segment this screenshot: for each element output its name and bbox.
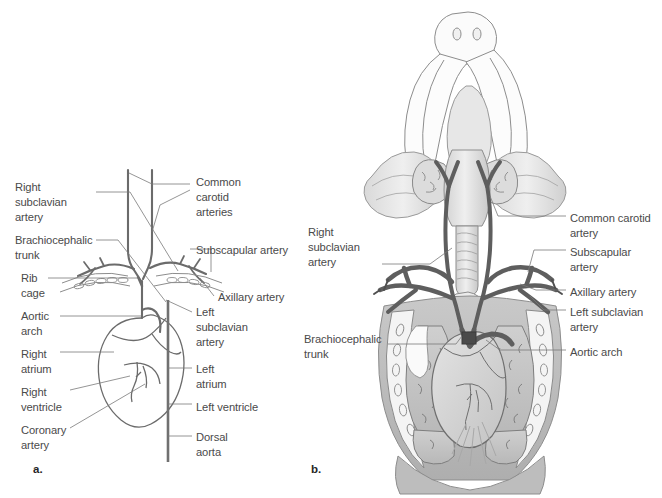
label-dorsal-aorta-a: Dorsal aorta <box>196 430 228 460</box>
panel-letter-b: b. <box>311 463 321 475</box>
label-aortic-arch-b: Aortic arch <box>570 345 622 360</box>
panel-b-leader-lines <box>382 196 566 350</box>
label-left-atrium-a: Left atrium <box>196 362 226 392</box>
label-right-ventricle-a: Right ventricle <box>21 385 62 415</box>
label-common-carotid-arteries-a: Common carotid arteries <box>196 175 241 221</box>
panel-a-schematic <box>78 170 206 332</box>
label-left-subclavian-artery-a: Left subclavian artery <box>196 305 248 351</box>
label-rib-cage-a: Rib cage <box>21 271 45 301</box>
label-right-atrium-a: Right atrium <box>21 347 51 377</box>
label-subscapular-artery-a: Subscapular artery <box>196 243 288 258</box>
label-right-subclavian-artery-a: Right subclavian artery <box>15 180 67 226</box>
label-common-carotid-artery-b: Common carotid artery <box>570 211 651 241</box>
label-left-ventricle-a: Left ventricle <box>196 400 258 415</box>
label-right-subclavian-artery-b: Right subclavian artery <box>308 225 360 271</box>
panel-a-leader-lines <box>48 173 214 436</box>
label-left-subclavian-artery-b: Left subclavian artery <box>570 305 643 335</box>
label-axillary-artery-b: Axillary artery <box>570 285 636 300</box>
panel-letter-a: a. <box>33 463 43 475</box>
panel-a-heart <box>98 315 184 427</box>
label-brachiocephalic-trunk-a: Brachiocephalic trunk <box>15 233 92 263</box>
label-axillary-artery-a: Axillary artery <box>218 290 284 305</box>
label-aortic-arch-a: Aortic arch <box>21 309 49 339</box>
panel-a-rib-ovals <box>74 277 211 289</box>
panel-a-rib-cage <box>60 273 224 292</box>
label-brachiocephalic-trunk-b: Brachiocephalic trunk <box>304 332 381 362</box>
label-subscapular-artery-b: Subscapular artery <box>570 245 631 275</box>
label-coronary-artery-a: Coronary artery <box>21 423 66 453</box>
panel-b-dissection <box>364 12 566 494</box>
anatomy-figure: Right subclavian artery Brachiocephalic … <box>0 0 662 498</box>
